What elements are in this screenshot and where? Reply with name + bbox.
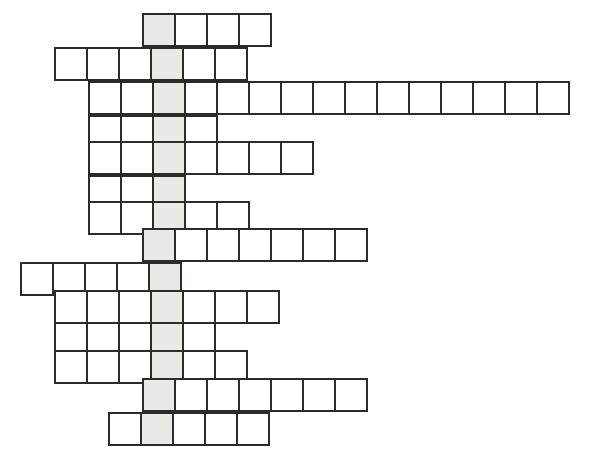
crossword-cell[interactable] xyxy=(312,81,346,115)
crossword-cell[interactable] xyxy=(120,81,154,115)
crossword-cell[interactable] xyxy=(86,290,120,324)
crossword-cell[interactable] xyxy=(54,290,88,324)
crossword-cell[interactable] xyxy=(246,290,280,324)
crossword-puzzle-grid xyxy=(0,0,599,462)
crossword-cell-highlighted[interactable] xyxy=(142,378,176,412)
crossword-cell[interactable] xyxy=(214,290,248,324)
crossword-cell[interactable] xyxy=(504,81,538,115)
crossword-cell[interactable] xyxy=(182,47,216,81)
crossword-cell[interactable] xyxy=(216,81,250,115)
crossword-cell-highlighted[interactable] xyxy=(142,13,176,47)
crossword-cell[interactable] xyxy=(174,228,208,262)
crossword-cell[interactable] xyxy=(248,141,282,175)
crossword-cell-highlighted[interactable] xyxy=(152,141,186,175)
crossword-cell[interactable] xyxy=(172,412,206,446)
crossword-cell[interactable] xyxy=(248,81,282,115)
crossword-cell[interactable] xyxy=(408,81,442,115)
crossword-cell[interactable] xyxy=(206,378,240,412)
crossword-cell[interactable] xyxy=(376,81,410,115)
crossword-cell[interactable] xyxy=(440,81,474,115)
crossword-row xyxy=(54,290,280,324)
crossword-cell[interactable] xyxy=(118,290,152,324)
crossword-cell[interactable] xyxy=(334,378,368,412)
crossword-cell[interactable] xyxy=(236,412,270,446)
crossword-cell[interactable] xyxy=(238,228,272,262)
crossword-cell[interactable] xyxy=(120,141,154,175)
crossword-cell[interactable] xyxy=(238,378,272,412)
crossword-cell[interactable] xyxy=(182,290,216,324)
crossword-cell[interactable] xyxy=(54,350,88,384)
crossword-cell[interactable] xyxy=(184,81,218,115)
crossword-cell[interactable] xyxy=(302,228,336,262)
crossword-cell[interactable] xyxy=(270,378,304,412)
crossword-cell[interactable] xyxy=(86,47,120,81)
crossword-cell[interactable] xyxy=(536,81,570,115)
crossword-cell[interactable] xyxy=(174,378,208,412)
crossword-cell[interactable] xyxy=(174,13,208,47)
crossword-cell[interactable] xyxy=(472,81,506,115)
crossword-cell[interactable] xyxy=(88,81,122,115)
crossword-cell[interactable] xyxy=(238,13,272,47)
crossword-cell[interactable] xyxy=(302,378,336,412)
crossword-row xyxy=(88,81,570,115)
crossword-cell[interactable] xyxy=(206,13,240,47)
crossword-cell[interactable] xyxy=(54,47,88,81)
crossword-cell[interactable] xyxy=(184,141,218,175)
crossword-cell[interactable] xyxy=(334,228,368,262)
crossword-cell-highlighted[interactable] xyxy=(150,290,184,324)
crossword-cell[interactable] xyxy=(204,412,238,446)
crossword-cell[interactable] xyxy=(280,81,314,115)
crossword-cell[interactable] xyxy=(206,228,240,262)
crossword-cell-highlighted[interactable] xyxy=(150,47,184,81)
crossword-cell[interactable] xyxy=(88,201,122,235)
crossword-cell-highlighted[interactable] xyxy=(142,228,176,262)
crossword-cell[interactable] xyxy=(214,47,248,81)
crossword-cell-highlighted[interactable] xyxy=(152,81,186,115)
crossword-cell[interactable] xyxy=(280,141,314,175)
crossword-cell[interactable] xyxy=(344,81,378,115)
crossword-row xyxy=(108,412,270,446)
crossword-row xyxy=(142,378,368,412)
crossword-cell[interactable] xyxy=(270,228,304,262)
crossword-row xyxy=(54,47,248,81)
crossword-cell[interactable] xyxy=(216,141,250,175)
crossword-row xyxy=(88,141,314,175)
crossword-cell[interactable] xyxy=(20,262,54,296)
crossword-cell[interactable] xyxy=(118,47,152,81)
crossword-row xyxy=(142,228,368,262)
crossword-row xyxy=(142,13,272,47)
crossword-cell-highlighted[interactable] xyxy=(140,412,174,446)
crossword-cell[interactable] xyxy=(88,141,122,175)
crossword-cell[interactable] xyxy=(108,412,142,446)
crossword-cell[interactable] xyxy=(86,350,120,384)
